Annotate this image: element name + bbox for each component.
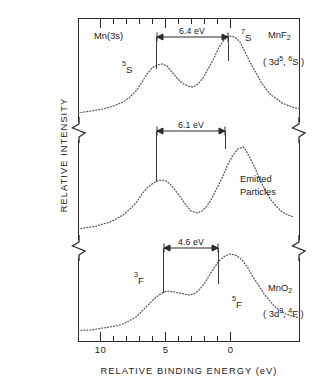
peak-marker-emitted-right — [225, 131, 226, 149]
tick-bottom-minor — [178, 336, 179, 342]
term-label-5f: 5F — [232, 294, 242, 310]
xtick-label-0: 0 — [228, 344, 234, 355]
xtick-label-5: 5 — [163, 344, 169, 355]
sample-label-mno2: MnO2 — [268, 282, 292, 294]
term-label-7s: 7S — [241, 27, 251, 43]
config-label-mno2: ( 3d3, 4F ) — [263, 307, 304, 319]
orbital-label-mn3s: Mn(3s) — [94, 30, 123, 41]
x-axis-title: RELATIVE BINDING ENERGY (eV) — [78, 366, 300, 376]
tick-top-minor — [113, 19, 114, 25]
splitting-label-mno2: 4.6 eV — [176, 237, 205, 247]
tick-top-minor — [152, 19, 153, 25]
tick-top-major — [100, 19, 101, 28]
trace-mno2 — [78, 254, 300, 331]
term-label-3f: 3F — [134, 270, 144, 286]
tick-bottom-minor — [139, 336, 140, 342]
tick-bottom-minor — [217, 336, 218, 342]
tick-bottom-minor — [152, 336, 153, 342]
tick-top-minor — [191, 19, 192, 25]
sample-label-emitted: Emitted — [240, 173, 272, 184]
tick-bottom-minor — [191, 336, 192, 342]
peak-marker-emitted-left — [156, 131, 157, 182]
tick-bottom-major — [165, 332, 166, 341]
trace-mnf2 — [78, 36, 300, 113]
tick-top-minor — [204, 19, 205, 25]
tick-bottom-minor — [113, 336, 114, 342]
tick-bottom-minor — [204, 336, 205, 342]
tick-bottom-major — [230, 332, 231, 341]
figure-root: Mn(3s) 6.4 eV 5S 7S MnF2 ( 3d5, 6S ) — [0, 0, 322, 387]
peak-marker-5f — [218, 248, 219, 284]
tick-top-major — [165, 19, 166, 28]
tick-top-minor — [217, 19, 218, 25]
peak-marker-7s — [228, 37, 229, 61]
config-label-mnf2: ( 3d5, 6S ) — [263, 55, 304, 67]
tick-top-major — [230, 19, 231, 28]
y-axis-title: RELATIVE INTENSITY — [59, 85, 69, 225]
peak-marker-5s — [156, 37, 157, 69]
tick-bottom-major — [100, 332, 101, 341]
splitting-label-mnf2: 6.4 eV — [177, 26, 206, 36]
xtick-label-10: 10 — [95, 344, 106, 355]
splitting-label-emitted: 6.1 eV — [176, 120, 205, 130]
sample-label-mnf2: MnF2 — [268, 29, 291, 41]
tick-top-minor — [126, 19, 127, 25]
tick-bottom-minor — [126, 336, 127, 342]
tick-top-minor — [178, 19, 179, 25]
tick-top-minor — [139, 19, 140, 25]
plot-area: Mn(3s) 6.4 eV 5S 7S MnF2 ( 3d5, 6S ) — [78, 18, 300, 342]
peak-marker-3f — [163, 248, 164, 293]
term-label-5s: 5S — [122, 59, 132, 75]
sample-label-emitted-line2: Particles — [240, 186, 276, 197]
